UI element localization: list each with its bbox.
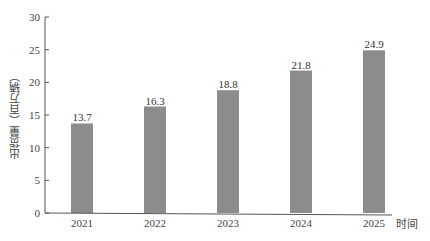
bar [217, 90, 239, 213]
y-tick-label: 0 [35, 207, 41, 219]
bar [71, 123, 93, 213]
x-axis: 20212022202320242025 [45, 213, 392, 229]
x-tick-label: 2025 [363, 217, 386, 229]
y-axis: 051015202530 [29, 11, 49, 219]
y-axis-label-wrap: 出货量（百万辆） [6, 60, 26, 170]
x-tick-label: 2022 [144, 217, 166, 229]
data-label: 13.7 [72, 111, 92, 123]
bars: 13.716.318.821.824.9 [71, 38, 385, 213]
data-label: 16.3 [145, 95, 165, 107]
y-axis-label: 出货量（百万辆） [8, 71, 24, 159]
bar-chart: 051015202530 13.716.318.821.824.9 202120… [0, 0, 430, 241]
data-label: 21.8 [291, 59, 311, 71]
y-tick-label: 10 [29, 142, 41, 154]
y-tick-label: 30 [29, 11, 41, 23]
bar [144, 107, 166, 213]
data-label: 18.8 [218, 78, 238, 90]
bar [290, 71, 312, 213]
x-tick-label: 2021 [71, 217, 93, 229]
y-tick-label: 25 [29, 44, 41, 56]
y-tick-label: 20 [29, 76, 41, 88]
x-tick-label: 2023 [217, 217, 240, 229]
y-tick-label: 5 [35, 174, 41, 186]
data-label: 24.9 [364, 38, 384, 50]
x-axis-label: 时间 [396, 218, 418, 231]
x-tick-label: 2024 [290, 217, 313, 229]
y-tick-label: 15 [29, 109, 41, 121]
bar [363, 50, 385, 213]
